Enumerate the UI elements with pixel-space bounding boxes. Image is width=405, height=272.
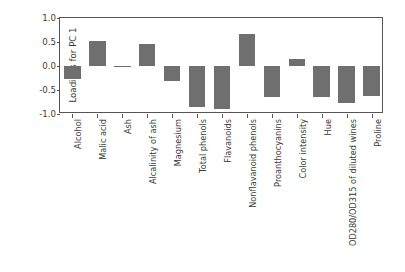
x-tick-label: OD280/OD315 of diluted wines bbox=[349, 119, 357, 246]
x-tick-label: Ash bbox=[124, 119, 132, 134]
bar bbox=[139, 44, 155, 66]
x-tick-mark bbox=[322, 114, 323, 118]
y-tick-mark bbox=[57, 114, 61, 115]
bars-layer bbox=[60, 18, 382, 112]
x-tick-mark bbox=[372, 114, 373, 118]
x-tick-mark bbox=[147, 114, 148, 118]
bar bbox=[214, 66, 230, 109]
x-tick-label: Nonflavanoid phenols bbox=[249, 119, 257, 208]
y-tick-label: 0.0 bbox=[38, 62, 56, 71]
y-tick-label: -0.5 bbox=[38, 86, 56, 95]
bar bbox=[338, 66, 354, 103]
x-tick-label: Alcalinity of ash bbox=[149, 119, 157, 184]
x-tick-mark bbox=[247, 114, 248, 118]
bar bbox=[313, 66, 329, 97]
x-tick-mark bbox=[72, 114, 73, 118]
x-tick-label: Alcohol bbox=[74, 119, 82, 149]
x-tick-label: Malic acid bbox=[99, 119, 107, 160]
bar bbox=[64, 66, 80, 79]
x-tick-mark bbox=[97, 114, 98, 118]
x-tick-mark bbox=[172, 114, 173, 118]
bar bbox=[189, 66, 205, 107]
x-tick-mark bbox=[347, 114, 348, 118]
x-tick-label: Flavanoids bbox=[224, 119, 232, 163]
x-tick-mark bbox=[272, 114, 273, 118]
x-tick-label: Magnesium bbox=[174, 119, 182, 166]
chart-page: Loadings for PC 1 1.00.50.0-0.5-1.0 Alco… bbox=[0, 0, 405, 272]
x-tick-label: Proanthocyanins bbox=[274, 119, 282, 187]
x-tick-label: Hue bbox=[324, 119, 332, 135]
bar bbox=[89, 41, 105, 66]
x-axis-tick-labels: AlcoholMalic acidAshAlcalinity of ashMag… bbox=[59, 119, 383, 269]
x-tick-mark bbox=[122, 114, 123, 118]
x-tick-mark bbox=[197, 114, 198, 118]
y-tick-label: 1.0 bbox=[38, 14, 56, 23]
bar bbox=[164, 66, 180, 81]
plot-area: Loadings for PC 1 1.00.50.0-0.5-1.0 bbox=[59, 17, 383, 113]
bar bbox=[289, 59, 305, 66]
x-tick-label: Total phenols bbox=[199, 119, 207, 173]
bar bbox=[363, 66, 379, 96]
bar bbox=[264, 66, 280, 97]
bar bbox=[239, 34, 255, 66]
x-tick-label: Proline bbox=[374, 119, 382, 147]
y-tick-label: 0.5 bbox=[38, 38, 56, 47]
y-tick-label: -1.0 bbox=[38, 110, 56, 119]
x-tick-label: Color intensity bbox=[299, 119, 307, 178]
bar bbox=[114, 66, 130, 67]
x-tick-mark bbox=[222, 114, 223, 118]
x-tick-mark bbox=[297, 114, 298, 118]
